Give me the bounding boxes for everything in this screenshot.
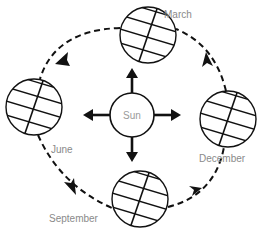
orbit-arc-march-to-june [40, 28, 120, 79]
globe-september [102, 162, 182, 234]
globe-june [0, 70, 76, 150]
arrowhead-icon [55, 52, 70, 66]
arrow-right-icon [171, 109, 181, 121]
orbit-arc-june-to-september [38, 135, 112, 208]
arrow-up-icon [126, 68, 138, 78]
label-september: September [49, 213, 99, 224]
globe-december [190, 82, 264, 162]
arrowhead-icon [64, 178, 76, 195]
label-june: June [51, 144, 73, 155]
orbit-arc-december-to-march [176, 29, 226, 91]
label-december: December [199, 153, 246, 164]
arrow-down-icon [126, 152, 138, 162]
arrow-left-icon [83, 109, 93, 121]
label-march: March [164, 9, 192, 20]
arrowhead-icon [202, 52, 213, 67]
earth-orbit-diagram: Sun March June September December [0, 0, 264, 234]
sun: Sun [83, 68, 181, 162]
sun-label: Sun [123, 110, 141, 121]
